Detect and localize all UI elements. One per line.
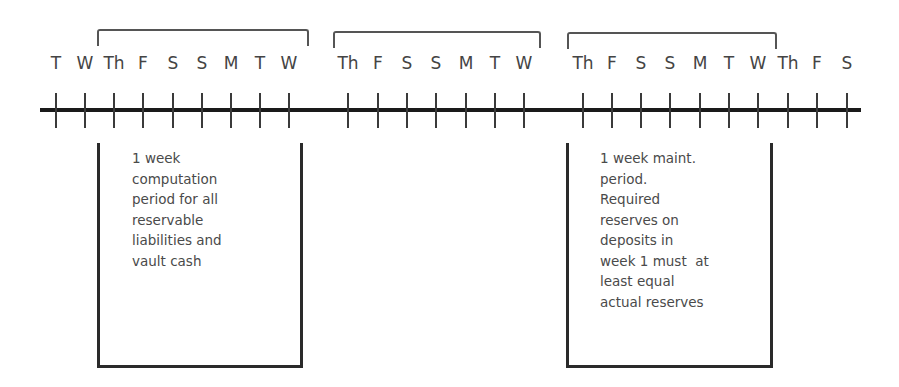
- day-label: S: [197, 53, 208, 73]
- tick-mark: [435, 93, 437, 128]
- tick-mark: [55, 93, 57, 128]
- day-label: Th: [777, 53, 798, 73]
- box-text-line: Required: [600, 189, 709, 210]
- box-text-line: reservable: [132, 210, 222, 231]
- tick-mark: [816, 93, 818, 128]
- day-label: Th: [572, 53, 593, 73]
- tick-mark: [523, 93, 525, 128]
- week-3-bracket: [567, 32, 777, 49]
- box-text-line: 1 week maint.: [600, 148, 709, 169]
- day-label: S: [665, 53, 676, 73]
- day-label: F: [812, 53, 822, 73]
- day-label: T: [255, 53, 265, 73]
- tick-mark: [84, 93, 86, 128]
- tick-mark: [377, 93, 379, 128]
- day-label: T: [490, 53, 500, 73]
- day-label: M: [224, 53, 239, 73]
- box-text-line: liabilities and: [132, 230, 222, 251]
- day-label: W: [516, 53, 533, 73]
- tick-mark: [582, 93, 584, 128]
- tick-mark: [230, 93, 232, 128]
- tick-mark: [347, 93, 349, 128]
- tick-mark: [699, 93, 701, 128]
- box-text-line: reserves on: [600, 210, 709, 231]
- box-text-line: computation: [132, 169, 222, 190]
- day-label: S: [842, 53, 853, 73]
- day-label: W: [77, 53, 94, 73]
- day-label: F: [373, 53, 383, 73]
- box-text-line: deposits in: [600, 230, 709, 251]
- day-label: W: [281, 53, 298, 73]
- box-text-line: 1 week: [132, 148, 222, 169]
- tick-mark: [201, 93, 203, 128]
- day-label: W: [750, 53, 767, 73]
- maintenance-period-box-text: 1 week maint.period.Requiredreserves ond…: [600, 148, 709, 312]
- tick-mark: [142, 93, 144, 128]
- week-2-bracket: [333, 31, 541, 48]
- tick-mark: [172, 93, 174, 128]
- tick-mark: [846, 93, 848, 128]
- tick-mark: [259, 93, 261, 128]
- tick-mark: [669, 93, 671, 128]
- tick-mark: [640, 93, 642, 128]
- box-text-line: vault cash: [132, 251, 222, 272]
- day-label: Th: [103, 53, 124, 73]
- box-text-line: least equal: [600, 271, 709, 292]
- tick-mark: [757, 93, 759, 128]
- day-label: F: [138, 53, 148, 73]
- day-label: S: [168, 53, 179, 73]
- box-text-line: period.: [600, 169, 709, 190]
- tick-mark: [288, 93, 290, 128]
- tick-mark: [728, 93, 730, 128]
- tick-mark: [465, 93, 467, 128]
- day-label: T: [51, 53, 61, 73]
- day-label: M: [459, 53, 474, 73]
- day-label: S: [431, 53, 442, 73]
- day-label: T: [724, 53, 734, 73]
- day-label: S: [402, 53, 413, 73]
- timeline-axis: [40, 108, 861, 112]
- day-label: F: [607, 53, 617, 73]
- box-text-line: week 1 must at: [600, 251, 709, 272]
- week-1-bracket: [97, 29, 309, 46]
- tick-mark: [611, 93, 613, 128]
- tick-mark: [406, 93, 408, 128]
- day-label: Th: [337, 53, 358, 73]
- day-label: S: [636, 53, 647, 73]
- tick-mark: [787, 93, 789, 128]
- computation-period-box-text: 1 weekcomputationperiod for allreservabl…: [132, 148, 222, 271]
- box-text-line: actual reserves: [600, 292, 709, 313]
- tick-mark: [113, 93, 115, 128]
- box-text-line: period for all: [132, 189, 222, 210]
- tick-mark: [494, 93, 496, 128]
- day-label: M: [693, 53, 708, 73]
